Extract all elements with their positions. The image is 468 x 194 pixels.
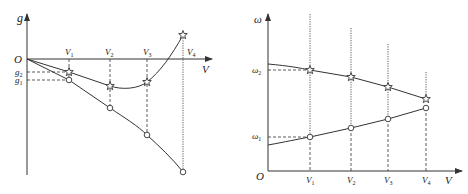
right-v3-label: V3 [384, 175, 393, 186]
left-v1-label: V1 [65, 47, 74, 58]
right-chart: ω V O ω2 ω1 V1 V2 V3 V4 [252, 13, 462, 186]
right-x-axis-label: V [445, 174, 453, 186]
left-v4-label: V4 [187, 47, 196, 58]
left-circle-marker-v3 [144, 132, 150, 138]
right-circle-curve [268, 108, 426, 145]
right-circle-marker-v4 [423, 105, 429, 111]
left-v2-label: V2 [105, 47, 114, 58]
left-star-marker-v4 [179, 31, 188, 39]
left-star-marker-v2 [106, 82, 115, 90]
left-origin-label: O [14, 53, 22, 65]
right-circle-marker-v3 [385, 116, 391, 122]
right-v2-label: V2 [347, 175, 356, 186]
right-circle-marker-v2 [348, 125, 354, 131]
right-v1-label: V1 [306, 175, 315, 186]
left-v3-label: V3 [143, 47, 152, 58]
left-y-axis-label: g [17, 11, 23, 25]
left-star-curve [27, 35, 183, 88]
left-circle-marker-v4 [180, 169, 186, 175]
right-v4-label: V4 [422, 175, 431, 186]
right-star-curve [268, 64, 426, 99]
right-w2-label: ω2 [252, 65, 261, 76]
diagram-canvas: g V O g2 g1 V1 V2 V3 V4 [0, 0, 468, 194]
left-chart: g V O g2 g1 V1 V2 V3 V4 [14, 11, 212, 175]
left-circle-marker-v2 [107, 105, 113, 111]
left-circle-marker-v1 [66, 77, 72, 83]
right-origin-label: O [256, 170, 264, 182]
right-circle-marker-v1 [307, 134, 313, 140]
left-x-axis-label: V [202, 63, 210, 75]
right-y-axis-label: ω [254, 13, 262, 25]
right-star-marker-v4 [422, 95, 431, 103]
left-circle-curve [27, 59, 183, 172]
right-w1-label: ω1 [252, 131, 261, 142]
